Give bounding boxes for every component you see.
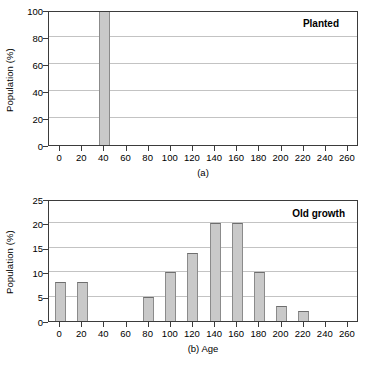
bar	[143, 297, 154, 321]
gridline	[49, 117, 357, 118]
bar	[276, 306, 287, 321]
gridline	[49, 63, 357, 64]
y-axis-title-b: Population (%)	[4, 230, 15, 294]
y-tick-mark	[43, 11, 48, 12]
y-tick-mark	[43, 200, 48, 201]
x-tick-mark	[126, 146, 127, 151]
bar	[99, 11, 110, 145]
x-tick-mark	[59, 322, 60, 327]
x-tick-mark	[148, 146, 149, 151]
y-tick-mark	[43, 92, 48, 93]
y-tick-label: 80	[32, 33, 43, 44]
y-tick-mark	[43, 65, 48, 66]
x-tick-mark	[170, 322, 171, 327]
y-tick-mark	[43, 224, 48, 225]
x-tick-mark	[258, 322, 259, 327]
bar	[77, 282, 88, 321]
x-tick-mark	[103, 146, 104, 151]
panel-caption-b: (b) Age	[48, 343, 358, 354]
figure-container: Population (%) 020406080100 Planted 0204…	[0, 0, 370, 367]
chart-panel-a: Population (%) 020406080100 Planted 0204…	[0, 0, 370, 190]
bar	[55, 282, 66, 321]
x-tick-mark	[148, 322, 149, 327]
y-tick-label: 25	[32, 195, 43, 206]
y-tick-label: 15	[32, 243, 43, 254]
x-tick-mark	[81, 146, 82, 151]
plot-area-b: Old growth	[48, 200, 358, 322]
y-axis-tick-labels-a: 020406080100	[15, 11, 43, 146]
chart-panel-b: Population (%) 0510152025 Old growth 020…	[0, 185, 370, 367]
y-tick-label: 40	[32, 87, 43, 98]
x-tick-mark	[347, 146, 348, 151]
y-axis-title-a: Population (%)	[4, 48, 15, 112]
x-tick-mark	[325, 146, 326, 151]
bar	[298, 311, 309, 321]
x-tick-mark	[126, 322, 127, 327]
x-tick-mark	[170, 146, 171, 151]
bar	[187, 253, 198, 321]
x-tick-mark	[303, 146, 304, 151]
x-tick-mark	[236, 322, 237, 327]
y-tick-mark	[43, 298, 48, 299]
y-tick-mark	[43, 273, 48, 274]
x-tick-mark	[347, 322, 348, 327]
gridline	[49, 271, 357, 272]
x-tick-mark	[103, 322, 104, 327]
gridline	[49, 296, 357, 297]
y-tick-mark	[43, 322, 48, 323]
x-tick-mark	[303, 322, 304, 327]
y-tick-mark	[43, 146, 48, 147]
y-tick-mark	[43, 119, 48, 120]
plot-area-a: Planted	[48, 11, 358, 146]
gridline	[49, 36, 357, 37]
bar	[254, 272, 265, 321]
x-tick-mark	[81, 322, 82, 327]
y-tick-label: 20	[32, 219, 43, 230]
x-tick-mark	[59, 146, 60, 151]
series-label-planted: Planted	[303, 18, 339, 29]
x-tick-mark	[281, 322, 282, 327]
x-tick-mark	[192, 322, 193, 327]
y-tick-label: 60	[32, 60, 43, 71]
bar	[232, 223, 243, 321]
bar	[210, 223, 221, 321]
panel-caption-a: (a)	[48, 167, 358, 178]
x-tick-mark	[214, 146, 215, 151]
x-tick-mark	[236, 146, 237, 151]
x-tick-mark	[325, 322, 326, 327]
gridline	[49, 90, 357, 91]
x-tick-mark	[281, 146, 282, 151]
x-tick-mark	[214, 322, 215, 327]
bar	[165, 272, 176, 321]
x-tick-label: 260	[332, 152, 362, 164]
gridline	[49, 222, 357, 223]
x-tick-mark	[258, 146, 259, 151]
x-tick-mark	[192, 146, 193, 151]
y-tick-mark	[43, 249, 48, 250]
gridline	[49, 247, 357, 248]
y-tick-label: 100	[27, 6, 43, 17]
x-tick-label: 260	[332, 328, 362, 340]
y-axis-tick-labels-b: 0510152025	[15, 200, 43, 322]
y-tick-label: 10	[32, 268, 43, 279]
series-label-old-growth: Old growth	[292, 208, 345, 219]
y-tick-label: 20	[32, 114, 43, 125]
y-tick-mark	[43, 38, 48, 39]
